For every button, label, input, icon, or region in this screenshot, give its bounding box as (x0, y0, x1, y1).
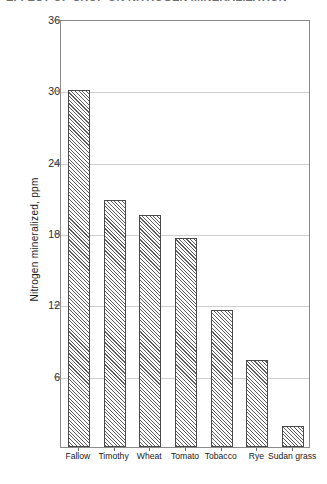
y-tick-label: 6 (6, 371, 60, 383)
gridline (61, 92, 309, 93)
x-tick-mark (149, 448, 150, 451)
bar-fallow (68, 90, 90, 447)
x-tick-label: Tobacco (205, 451, 237, 461)
x-tick-label: Fallow (65, 451, 90, 461)
x-tick-label: Rye (249, 451, 264, 461)
x-tick-mark (114, 448, 115, 451)
x-tick-label: Wheat (137, 451, 162, 461)
x-tick-label: Tomato (171, 451, 199, 461)
y-tick-label: 30 (6, 85, 60, 97)
bar-wheat (139, 215, 161, 447)
x-tick-mark (292, 448, 293, 451)
y-tick-label: 18 (6, 228, 60, 240)
bar-rye (246, 360, 268, 447)
bar-timothy (104, 200, 126, 447)
x-tick-mark (78, 448, 79, 451)
x-tick-mark (256, 448, 257, 451)
y-tick-label: 12 (6, 299, 60, 311)
x-tick-label: Sudan grass (268, 451, 316, 461)
x-tick-label: Timothy (98, 451, 128, 461)
x-tick-mark (221, 448, 222, 451)
y-axis: Nitrogen mineralized, ppm 61218243036 (0, 0, 60, 484)
plot-area (60, 20, 310, 448)
bar-tomato (175, 238, 197, 447)
x-axis: FallowTimothyWheatTomatoTobaccoRyeSudan … (60, 451, 310, 471)
x-tick-mark (185, 448, 186, 451)
bar-tobacco (211, 310, 233, 447)
gridline (61, 235, 309, 236)
bar-sudan-grass (282, 426, 304, 447)
gridline (61, 164, 309, 165)
y-tick-label: 24 (6, 157, 60, 169)
bar-chart-figure: Nitrogen mineralized, ppm 61218243036 Fa… (0, 0, 327, 484)
y-tick-label: 36 (6, 14, 60, 26)
